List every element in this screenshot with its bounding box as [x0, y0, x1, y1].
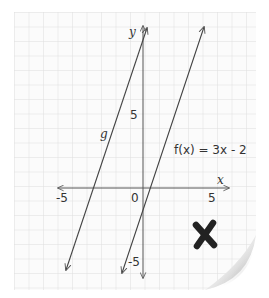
- line-f-label: f(x) = 3x - 2: [174, 144, 247, 156]
- y-tick-neg5: -5: [128, 256, 140, 268]
- x-tick-5: 5: [208, 192, 216, 204]
- y-axis-label: y: [129, 26, 136, 38]
- x-axis-label: x: [217, 174, 224, 186]
- y-tick-5: 5: [130, 109, 138, 121]
- line-g-label: g: [100, 128, 108, 140]
- x-tick-0: 0: [131, 192, 139, 204]
- x-tick-neg5: -5: [56, 192, 68, 204]
- graph-paper-figure: y x 5 -5 -5 0 5 g f(x) = 3x - 2: [0, 0, 269, 298]
